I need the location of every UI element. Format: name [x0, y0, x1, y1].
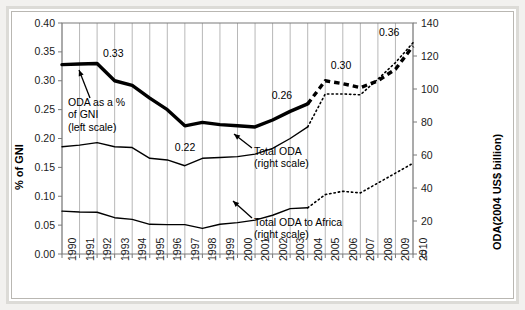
x-axis-tick-label: 1999	[225, 238, 236, 261]
x-axis-tick-label: 1993	[120, 238, 131, 261]
y-axis-right-tick-label: 60	[421, 150, 433, 161]
x-axis-tick-label: 2008	[383, 238, 394, 261]
annotation-line: (right scale)	[254, 228, 342, 240]
y-axis-left-title: % of GNI	[14, 144, 25, 190]
y-axis-left-tick-label: 0.20	[35, 133, 55, 144]
x-axis-tick-label: 1992	[102, 238, 113, 261]
y-axis-left-tick-label: 0.10	[35, 191, 55, 202]
data-label: 0.36	[379, 27, 399, 38]
x-axis-tick-label: 2002	[278, 238, 289, 261]
data-label: 0.22	[175, 142, 195, 153]
x-axis-tick-label: 1991	[85, 238, 96, 261]
y-axis-right-tick-label: 20	[421, 216, 433, 227]
x-axis-tick-label: 2004	[313, 238, 324, 261]
data-label: 0.26	[272, 90, 292, 101]
x-axis-tick-label: 2000	[243, 238, 254, 261]
data-label: 0.33	[103, 48, 123, 59]
y-axis-right-tick-label: 140	[421, 18, 439, 29]
x-axis-tick-label: 1994	[137, 238, 148, 261]
x-axis-tick-label: 1996	[172, 238, 183, 261]
x-axis-tick-label: 1997	[190, 238, 201, 261]
y-axis-left-tick-label: 0.15	[35, 162, 55, 173]
y-axis-right-tick-label: 120	[421, 51, 439, 62]
annotation-total-oda: Total ODA(right scale)	[254, 145, 309, 170]
x-axis-tick-label: 2010	[418, 238, 429, 261]
y-axis-left-tick-label: 0.40	[35, 18, 55, 29]
x-axis-tick-label: 2007	[365, 238, 376, 261]
y-axis-right-tick-label: 100	[421, 84, 439, 95]
y-axis-left-tick-label: 0.25	[35, 104, 55, 115]
annotation-line: of GNI	[68, 108, 125, 120]
annotation-total-oda-africa: Total ODA to Africa(right scale)	[254, 216, 342, 241]
annotation-line: ODA as a %	[68, 96, 125, 108]
y-axis-left-tick-label: 0.30	[35, 75, 55, 86]
y-axis-right-tick-label: 40	[421, 183, 433, 194]
annotation-line: Total ODA to Africa	[254, 216, 342, 228]
annotation-oda-percent-gni: ODA as a %of GNI(left scale)	[68, 96, 125, 133]
x-axis-tick-label: 2001	[260, 238, 271, 261]
chart-figure: 0.000.050.100.150.200.250.300.350.40 020…	[0, 0, 525, 310]
y-axis-right-title: ODA(2004 US$ billion)	[492, 134, 503, 250]
x-axis-tick-label: 1998	[207, 238, 218, 261]
x-axis-tick-label: 2003	[295, 238, 306, 261]
y-axis-right-tick-label: 80	[421, 117, 433, 128]
x-axis-tick-label: 1995	[155, 238, 166, 261]
y-axis-left-tick-label: 0.00	[35, 249, 55, 260]
x-axis-tick-label: 2006	[348, 238, 359, 261]
y-axis-left-tick-label: 0.05	[35, 220, 55, 231]
data-label: 0.30	[331, 60, 351, 71]
annotation-line: Total ODA	[254, 145, 309, 157]
x-axis-tick-label: 2005	[330, 238, 341, 261]
x-axis-tick-label: 2009	[400, 238, 411, 261]
x-axis-tick-label: 1990	[67, 238, 78, 261]
annotation-line: (left scale)	[68, 121, 125, 133]
annotation-line: (right scale)	[254, 157, 309, 169]
y-axis-left-tick-label: 0.35	[35, 46, 55, 57]
